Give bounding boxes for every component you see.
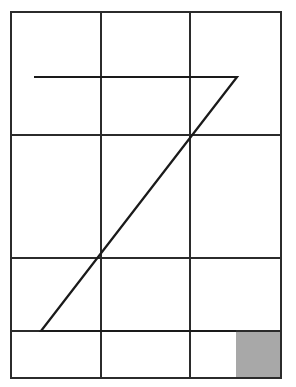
figure-canvas bbox=[0, 0, 296, 387]
gray-corner-square bbox=[236, 331, 281, 378]
figure-svg bbox=[0, 0, 296, 387]
